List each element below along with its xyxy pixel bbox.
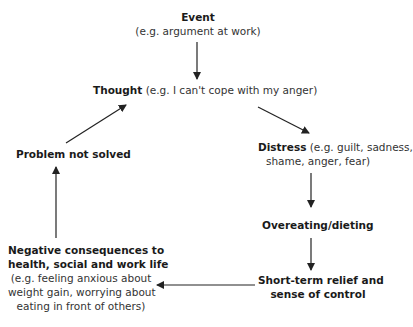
distress-title: Distress — [258, 141, 306, 153]
consequences-title-line1: Negative consequences to — [8, 243, 154, 257]
consequences-title-line2: health, social and work life — [8, 257, 154, 271]
distress-example-line2: shame, anger, fear) — [258, 154, 378, 168]
node-problem: Problem not solved — [16, 147, 116, 161]
event-example: (e.g. argument at work) — [130, 24, 266, 38]
consequences-example-line3: eating in front of others) — [8, 299, 154, 313]
consequences-example-line1: (e.g. feeling anxious about — [8, 271, 154, 285]
consequences-example-line2: weight gain, worrying about — [8, 285, 154, 299]
arrow-thought-to-distress — [258, 107, 309, 133]
node-consequences: Negative consequences to health, social … — [8, 243, 154, 313]
arrow-problem-to-thought — [66, 105, 126, 143]
thought-example: (e.g. I can't cope with my anger) — [146, 84, 318, 96]
distress-example-line1: (e.g. guilt, sadness, — [310, 141, 413, 153]
thought-title: Thought — [93, 84, 142, 96]
problem-title: Problem not solved — [16, 147, 116, 161]
event-title: Event — [130, 10, 266, 24]
node-thought: Thought (e.g. I can't cope with my anger… — [93, 83, 313, 97]
overeating-title: Overeating/dieting — [262, 218, 362, 232]
node-overeating: Overeating/dieting — [262, 218, 362, 232]
node-relief: Short-term relief and sense of control — [258, 273, 378, 301]
node-event: Event (e.g. argument at work) — [130, 10, 266, 38]
relief-title-line1: Short-term relief and — [258, 273, 378, 287]
node-distress: Distress (e.g. guilt, sadness, shame, an… — [258, 140, 378, 168]
relief-title-line2: sense of control — [258, 287, 378, 301]
